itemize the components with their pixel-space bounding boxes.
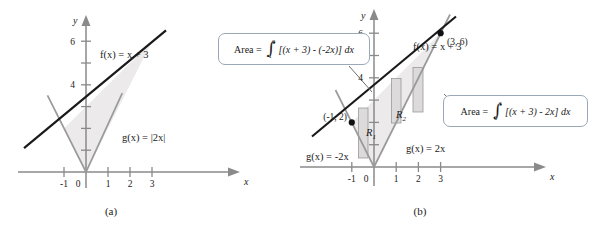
- callout-right-integral-icon: 3 ∫ 0: [493, 101, 502, 121]
- x-tick-label-b-2: 2: [416, 174, 421, 184]
- callout-right-integrand: [(x + 3) - 2x] dx: [505, 106, 570, 117]
- function-label-g-left-b: g(x) = -2x: [306, 151, 349, 163]
- x-axis-arrow-b: [534, 163, 546, 172]
- x-tick-label-b--1: -1: [348, 174, 356, 184]
- callout-left-integral-icon: 0 ∫ -1: [267, 39, 276, 59]
- x-tick-label-b-1: 1: [394, 174, 399, 184]
- function-label-g-right-b: g(x) = 2x: [406, 143, 446, 155]
- callout-left-lower-limit: -1: [266, 53, 271, 60]
- y-axis-arrow-b: [370, 9, 379, 20]
- figure-container: -1 0 1 2 3 4 6 x y f(x) = x + 3 g(x) = |…: [0, 0, 596, 229]
- callout-area-r2: Area = 3 ∫ 0 [(x + 3) - 2x] dx: [443, 95, 588, 127]
- y-axis-label-b: y: [360, 10, 366, 21]
- region-label-r2-subscript: 2: [402, 115, 406, 123]
- point-label-3-6: (3, 6): [447, 37, 468, 48]
- point-dot-3-6: [438, 30, 444, 36]
- representative-strip-r2-alt: [413, 68, 423, 113]
- callout-left-integrand: [(x + 3) - (-2x)] dx: [279, 44, 354, 55]
- callout-area-r1: Area = 0 ∫ -1 [(x + 3) - (-2x)] dx: [218, 33, 370, 65]
- callout-right-lower-limit: 0: [494, 115, 497, 122]
- x-tick-label-b-3: 3: [438, 174, 443, 184]
- callout-right-area-label: Area =: [461, 106, 489, 117]
- region-label-r1-subscript: 1: [372, 133, 376, 141]
- point-dot--1-2: [349, 119, 355, 125]
- callout-left-area-label: Area =: [234, 44, 262, 55]
- x-tick-label-b-0: 0: [364, 174, 369, 184]
- panel-caption-b: (b): [414, 205, 427, 218]
- x-axis-label-b: x: [549, 171, 555, 182]
- point-label--1-2: (-1, 2): [323, 112, 347, 123]
- y-tick-label-b-4: 4: [358, 73, 363, 83]
